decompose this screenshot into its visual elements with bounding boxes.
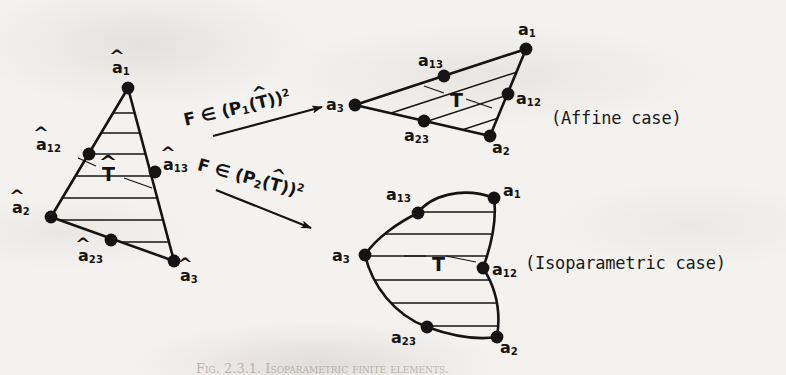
reference-label-leader-right [124, 178, 152, 188]
node-label-a3: a3 [326, 97, 344, 113]
node-a1-dot [122, 82, 135, 95]
figure-canvas: a1a12a13a2a23a3 T a1a13a12a3a23a2 T (Aff… [0, 0, 786, 375]
node-label-a1: a1 [503, 183, 521, 199]
node-label-a3: a3 [180, 268, 198, 284]
node-a12-dot [477, 262, 490, 275]
isoparametric-case-caption: (Isoparametric case) [525, 255, 726, 272]
node-label-a13: a13 [163, 157, 188, 173]
node-a13-dot [412, 207, 425, 220]
reference-triangle-group [40, 82, 190, 268]
affine-element-label: T [450, 91, 463, 110]
node-label-a12: a12 [36, 137, 61, 153]
node-label-a2: a2 [500, 340, 518, 356]
node-label-a13: a13 [386, 187, 411, 203]
node-a3-dot [359, 249, 372, 262]
node-a23-dot [105, 234, 118, 247]
figure-caption: Fig. 2.3.1. Isoparametric finite element… [196, 361, 616, 375]
node-a12-dot [83, 148, 96, 161]
node-a3-dot [349, 99, 362, 112]
affine-case-caption: (Affine case) [551, 110, 681, 127]
reference-triangle-hatching [40, 113, 190, 242]
node-label-a12: a12 [516, 91, 541, 107]
node-label-a1: a1 [518, 22, 536, 38]
node-a13-dot [149, 166, 162, 179]
node-a13-dot [438, 70, 451, 83]
node-label-a13: a13 [418, 53, 443, 69]
node-label-a23: a23 [78, 248, 103, 264]
reference-element-label: T [102, 165, 115, 184]
node-label-a1: a1 [112, 60, 130, 76]
node-a1-dot [520, 43, 533, 56]
isoparametric-element-nodes [359, 192, 504, 344]
isoparametric-element-label: T [432, 255, 445, 274]
iso-label-leader-right [446, 256, 476, 262]
node-label-a23: a23 [391, 330, 416, 346]
node-label-a12: a12 [492, 262, 517, 278]
node-a2-dot [45, 211, 58, 224]
node-a23-dot [421, 321, 434, 334]
node-a1-dot [488, 192, 501, 205]
node-label-a2: a2 [12, 200, 30, 216]
node-a23-dot [418, 115, 431, 128]
node-label-a23: a23 [404, 128, 429, 144]
node-label-a3: a3 [332, 248, 350, 264]
affine-label-leader-left [424, 86, 444, 93]
node-a12-dot [502, 88, 515, 101]
node-label-a2: a2 [492, 140, 510, 156]
